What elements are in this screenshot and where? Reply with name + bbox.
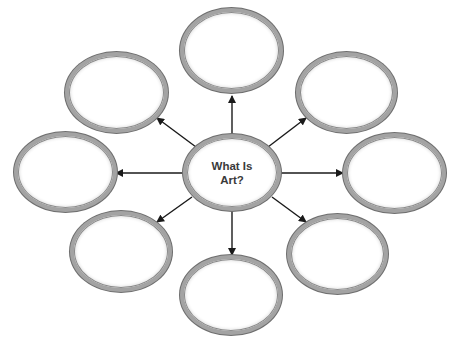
arrow-to-lower-right xyxy=(272,197,306,222)
satellite-node-upper-right[interactable] xyxy=(296,52,397,133)
idea-web-diagram: What Is Art? xyxy=(0,0,458,348)
satellite-node-left[interactable] xyxy=(14,132,117,212)
satellite-node-upper-left[interactable] xyxy=(65,52,168,133)
arrow-to-lower-left xyxy=(157,197,192,222)
center-node-label: What Is Art? xyxy=(212,159,253,187)
arrow-to-upper-right xyxy=(268,118,306,147)
satellite-node-lower-left[interactable] xyxy=(70,211,172,292)
satellite-node-lower-right[interactable] xyxy=(287,214,388,294)
satellite-node-top[interactable] xyxy=(180,8,283,93)
satellite-node-right[interactable] xyxy=(343,133,446,213)
satellite-node-bottom[interactable] xyxy=(180,255,282,335)
arrow-to-upper-left xyxy=(157,118,196,147)
center-node: What Is Art? xyxy=(183,134,281,211)
